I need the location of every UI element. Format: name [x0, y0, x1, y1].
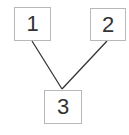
node-1: 1 [14, 7, 51, 41]
node-2: 2 [90, 8, 126, 41]
node-2-label: 2 [102, 12, 114, 38]
node-3-label: 3 [57, 94, 69, 120]
edge-2-3 [62, 41, 107, 89]
node-3: 3 [44, 90, 82, 124]
edge-1-3 [32, 41, 62, 89]
node-1-label: 1 [26, 11, 38, 37]
